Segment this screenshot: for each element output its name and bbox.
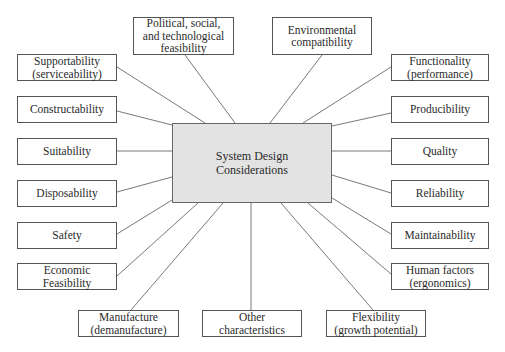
node-constructability: Constructability [17,96,117,123]
node-environmental-compatibility: Environmental compatibility [272,17,372,55]
node-flexibility: Flexibility (growth potential) [326,310,426,337]
node-supportability: Supportability (serviceability) [17,54,117,81]
node-suitability: Suitability [17,138,117,165]
node-reliability: Reliability [391,180,489,207]
node-human-factors: Human factors (ergonomics) [391,263,489,290]
node-producibility: Producibility [391,96,489,123]
node-other-characteristics: Other characteristics [202,310,302,337]
node-safety: Safety [17,222,117,249]
node-maintainability: Maintainability [391,222,489,249]
node-manufacture: Manufacture (demanufacture) [78,310,179,337]
node-quality: Quality [391,138,489,165]
node-functionality: Functionality (performance) [391,54,489,81]
center-node-system-design-considerations: System Design Considerations [172,123,332,203]
node-economic-feasibility: Economic Feasibility [17,263,117,290]
node-political-feasibility: Political, social, and technological fea… [133,17,234,55]
node-disposability: Disposability [17,180,117,207]
